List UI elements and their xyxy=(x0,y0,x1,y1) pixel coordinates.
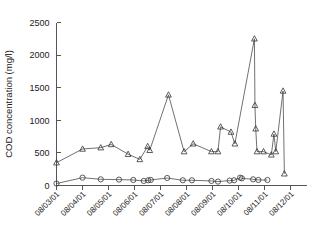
data-point-marker-triangle xyxy=(261,149,267,154)
x-tick-label: 08/11/01 xyxy=(242,189,270,217)
axis-labels-group: COD concentration (mg/l) xyxy=(3,50,14,158)
x-tick-label: 08/12/01 xyxy=(267,189,296,218)
cod-concentration-chart: 05001000150020002500 08/03/0108/04/0108/… xyxy=(0,0,321,238)
y-tick-label: 500 xyxy=(34,148,49,158)
x-tick-label: 08/06/01 xyxy=(111,189,140,218)
y-axis-title: COD concentration (mg/l) xyxy=(3,50,14,158)
chart-canvas: 05001000150020002500 08/03/0108/04/0108/… xyxy=(0,0,321,238)
x-axis: 08/03/0108/04/0108/05/0108/06/0108/07/01… xyxy=(33,186,306,218)
y-tick-label: 0 xyxy=(44,181,49,191)
x-tick-label: 08/09/01 xyxy=(189,189,218,218)
y-tick-label: 2000 xyxy=(29,50,49,60)
y-tick-label: 2500 xyxy=(29,18,49,28)
data-point-marker-triangle xyxy=(108,141,114,146)
series-line-influent-cod xyxy=(57,39,285,174)
data-series-group xyxy=(54,36,288,186)
x-tick-label: 08/08/01 xyxy=(163,189,192,218)
y-tick-label: 1000 xyxy=(29,116,49,126)
x-tick-label: 08/10/01 xyxy=(215,189,244,218)
x-tick-label: 08/05/01 xyxy=(85,189,114,218)
x-tick-label: 08/03/01 xyxy=(33,189,62,218)
x-tick-label: 08/04/01 xyxy=(59,189,88,218)
y-tick-label: 1500 xyxy=(29,83,49,93)
x-tick-label: 08/07/01 xyxy=(137,189,166,218)
